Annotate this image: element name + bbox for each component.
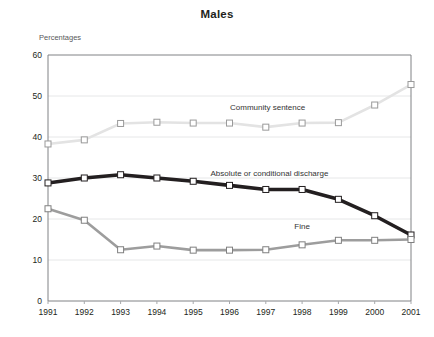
data-point-marker [227, 247, 233, 253]
x-tick-label: 1992 [75, 307, 94, 317]
series-label: Community sentence [230, 103, 306, 112]
data-point-marker [45, 206, 51, 212]
y-tick-label: 0 [37, 296, 42, 306]
x-tick-label: 1997 [256, 307, 275, 317]
data-point-marker [227, 120, 233, 126]
y-tick-label: 30 [33, 173, 43, 183]
x-tick-label: 1993 [111, 307, 130, 317]
data-point-marker [118, 172, 124, 178]
data-point-marker [190, 120, 196, 126]
x-tick-label: 1995 [184, 307, 203, 317]
data-point-marker [45, 180, 51, 186]
data-point-marker [45, 141, 51, 147]
data-point-marker [335, 120, 341, 126]
data-point-marker [118, 120, 124, 126]
x-tick-labels-group: 1991199219931994199519961997199819992000… [39, 301, 421, 317]
series-label: Fine [294, 222, 310, 231]
y-tick-label: 60 [33, 50, 43, 60]
data-point-marker [408, 237, 414, 243]
data-point-marker [263, 247, 269, 253]
data-point-marker [299, 186, 305, 192]
data-point-marker [372, 213, 378, 219]
data-point-marker [154, 119, 160, 125]
y-tick-label: 20 [33, 214, 43, 224]
data-point-marker [81, 137, 87, 143]
x-tick-label: 1998 [293, 307, 312, 317]
x-tick-label: 1996 [220, 307, 239, 317]
data-point-marker [81, 175, 87, 181]
x-tick-label: 1999 [329, 307, 348, 317]
data-point-marker [335, 196, 341, 202]
y-tick-labels-group: 0102030405060 [33, 50, 43, 306]
data-point-marker [263, 124, 269, 130]
data-point-marker [299, 120, 305, 126]
x-tick-label: 2000 [365, 307, 384, 317]
y-tick-label: 10 [33, 255, 43, 265]
data-point-marker [81, 217, 87, 223]
data-point-marker [263, 186, 269, 192]
data-point-marker [154, 243, 160, 249]
series-line [48, 209, 411, 250]
data-point-marker [372, 102, 378, 108]
data-point-marker [299, 242, 305, 248]
line-chart-plot: 0102030405060 19911992199319941995199619… [0, 0, 434, 337]
series-line [48, 85, 411, 144]
data-point-marker [335, 237, 341, 243]
x-tick-label: 1994 [147, 307, 166, 317]
data-point-marker [118, 247, 124, 253]
chart-container: Males Percentages 0102030405060 19911992… [0, 0, 434, 337]
data-point-marker [190, 178, 196, 184]
y-tick-label: 40 [33, 132, 43, 142]
x-tick-label: 1991 [39, 307, 58, 317]
data-point-marker [372, 237, 378, 243]
data-point-marker [154, 175, 160, 181]
x-tick-label: 2001 [402, 307, 421, 317]
data-point-marker [227, 182, 233, 188]
data-point-marker [190, 247, 196, 253]
series-label: Absolute or conditional discharge [211, 169, 329, 178]
data-point-marker [408, 82, 414, 88]
y-tick-label: 50 [33, 91, 43, 101]
